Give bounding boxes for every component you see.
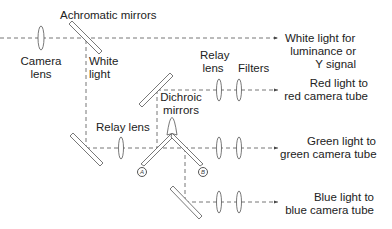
output-green-line1: Green light to bbox=[280, 134, 376, 148]
red-relay-lens bbox=[217, 79, 222, 101]
white-light-label-2: light bbox=[89, 67, 110, 81]
dichroic-mirror-a bbox=[141, 133, 173, 166]
achromatic-mirrors-label: Achromatic mirrors bbox=[60, 8, 156, 22]
output-green-line2: green camera tube bbox=[280, 147, 376, 161]
dichroic-mirror-b bbox=[171, 133, 203, 166]
red-filter bbox=[237, 79, 242, 101]
green-filter bbox=[237, 137, 242, 159]
mirror-a-marker: A bbox=[137, 167, 147, 177]
output-white-line1: White light for bbox=[285, 31, 355, 45]
blue-relay-lens bbox=[217, 191, 222, 213]
blue-mirror bbox=[170, 186, 202, 219]
output-red-line2: red camera tube bbox=[280, 89, 368, 103]
green-relay-lens bbox=[217, 137, 222, 159]
output-blue-line1: Blue light to bbox=[280, 190, 374, 204]
relay-lens-lower bbox=[119, 137, 124, 159]
output-blue-line2: blue camera tube bbox=[280, 203, 374, 217]
output-red-line1: Red light to bbox=[284, 76, 368, 90]
white-light-label-1: White bbox=[89, 54, 118, 68]
camera-lens-label-2: lens bbox=[20, 67, 62, 81]
achromatic-mirror-bottom bbox=[70, 133, 103, 166]
achromatic-mirror-top bbox=[69, 21, 102, 54]
output-white-line2: luminance or bbox=[285, 44, 356, 58]
mirror-b-marker: B bbox=[198, 167, 208, 177]
dichroic-label-1: Dichroic bbox=[156, 90, 206, 104]
dichroic-label-2: mirrors bbox=[156, 103, 206, 117]
camera-lens-label-1: Camera bbox=[20, 54, 62, 68]
relay-lens-lower-label: Relay lens bbox=[96, 120, 150, 134]
camera-lens bbox=[38, 26, 44, 50]
relay-lens-upper-label-1: Relay bbox=[200, 48, 226, 62]
filters-label: Filters bbox=[238, 61, 269, 75]
dichroic-lens bbox=[167, 118, 177, 136]
output-white-line3: Y signal bbox=[285, 57, 356, 71]
relay-lens-upper-label-2: lens bbox=[200, 61, 226, 75]
blue-filter bbox=[237, 191, 242, 213]
